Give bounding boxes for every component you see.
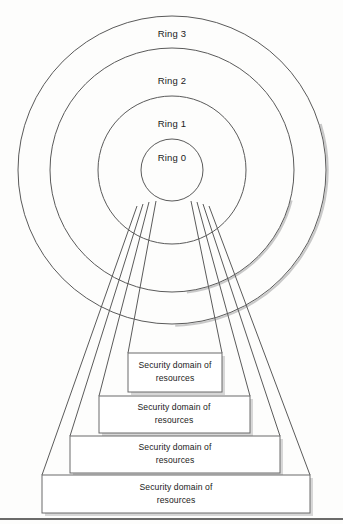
domain-label-line-2: resources xyxy=(140,494,213,507)
domain-label-line-1: Security domain of xyxy=(139,360,212,370)
domain-box-1-label: Security domain ofresources xyxy=(139,359,212,385)
ring-2-label: Ring 2 xyxy=(158,75,187,86)
funnel-1-left-edge xyxy=(128,201,156,353)
domain-box-2-label: Security domain ofresources xyxy=(138,401,211,427)
ring-security-domain-diagram: Ring 3Ring 2Ring 1Ring 0 Security domain… xyxy=(0,0,343,524)
domain-box-3-label: Security domain ofresources xyxy=(139,441,212,467)
ring-1-label: Ring 1 xyxy=(158,118,187,129)
domain-label-line-1: Security domain of xyxy=(140,482,213,492)
ring-2-shadow xyxy=(187,201,292,293)
domain-label-line-2: resources xyxy=(139,454,212,467)
ring-3-label: Ring 3 xyxy=(158,28,187,39)
ring-shadows xyxy=(175,124,327,326)
domain-label-line-2: resources xyxy=(139,372,212,385)
domain-label-line-1: Security domain of xyxy=(138,402,211,412)
ring-circles xyxy=(18,16,326,324)
ring-0-label: Ring 0 xyxy=(158,152,187,163)
ring-0-circle xyxy=(141,139,203,201)
domain-label-line-1: Security domain of xyxy=(139,442,212,452)
ring-3-shadow xyxy=(175,124,327,326)
ring-3-circle xyxy=(18,16,326,324)
domain-label-line-2: resources xyxy=(138,414,211,427)
domain-box-4-label: Security domain ofresources xyxy=(140,481,213,507)
